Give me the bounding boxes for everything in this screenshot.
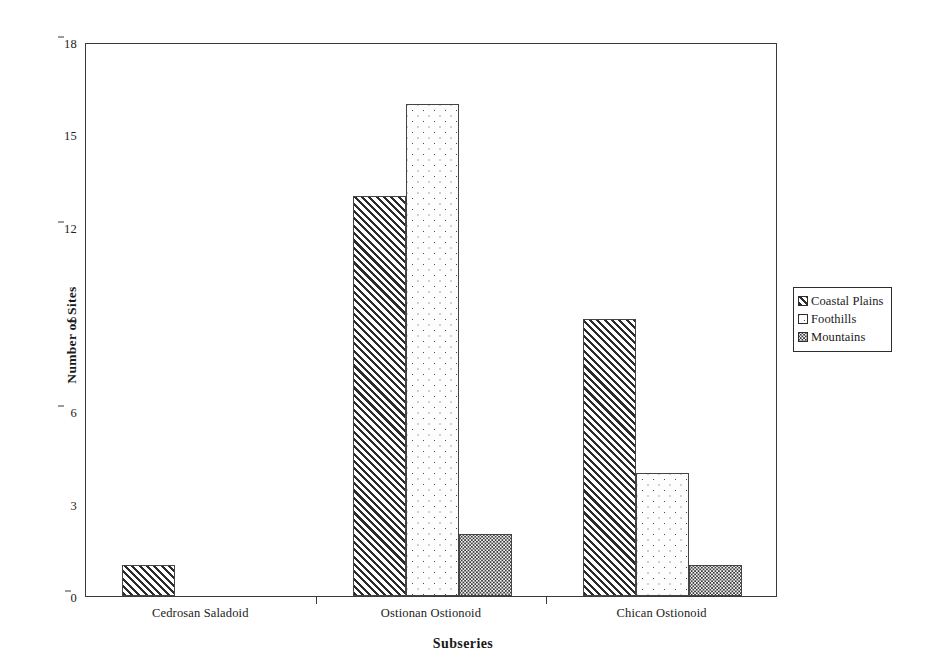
x-axis-category-label: Chican Ostionoid [617, 606, 707, 621]
legend-item[interactable]: Mountains [798, 328, 884, 346]
x-axis-separator-tick [316, 597, 317, 604]
legend-item-label: Coastal Plains [811, 295, 884, 308]
legend[interactable]: Coastal PlainsFoothillsMountains [793, 287, 892, 352]
legend-swatch-icon [798, 314, 808, 324]
y-axis-tick-mark [65, 591, 71, 592]
x-axis-title: Subseries [0, 636, 926, 652]
x-axis-category-label: Ostionan Ostionoid [381, 606, 481, 621]
plot-area: 0369121518 [85, 43, 777, 597]
y-axis-tick-mark [58, 406, 64, 407]
y-axis-tick-label: 15 [64, 129, 86, 144]
legend-swatch-icon [798, 332, 808, 342]
y-axis-tick-label: 0 [71, 591, 86, 606]
bar [459, 534, 512, 596]
bar [406, 104, 459, 596]
bar [122, 565, 175, 596]
bar-chart-figure: Number of Sites 0369121518 Cedrosan Sala… [0, 0, 926, 670]
y-axis-tick-mark [58, 221, 64, 222]
y-axis-tick-label: 12 [64, 221, 86, 236]
legend-item[interactable]: Coastal Plains [798, 292, 884, 310]
legend-item-label: Mountains [811, 331, 865, 344]
legend-item-label: Foothills [811, 313, 856, 326]
bar [353, 196, 406, 596]
x-axis-category-label: Cedrosan Saladoid [152, 606, 249, 621]
bar [583, 319, 636, 596]
x-axis-separator-tick [546, 597, 547, 604]
bar [689, 565, 742, 596]
legend-swatch-icon [798, 296, 808, 306]
legend-item[interactable]: Foothills [798, 310, 884, 328]
y-axis-tick-label: 3 [71, 498, 86, 513]
y-axis-tick-label: 18 [64, 37, 86, 52]
bar [636, 473, 689, 596]
y-axis-tick-label: 6 [71, 406, 86, 421]
y-axis-tick-label: 9 [71, 314, 86, 329]
y-axis-tick-mark [58, 37, 64, 38]
y-axis-title: Number of Sites [64, 286, 80, 383]
